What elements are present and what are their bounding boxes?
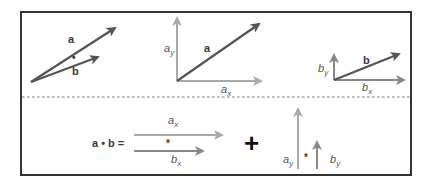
- equation-lhs: a • b =: [92, 137, 124, 149]
- vector-b-label: b: [363, 54, 370, 66]
- plus-sign: +: [244, 128, 259, 158]
- dot-operator: •: [72, 52, 76, 63]
- vector-b-label: b: [72, 65, 79, 77]
- x-term-multiply: *: [166, 138, 170, 149]
- diagram-frame: [21, 12, 411, 175]
- y-term-multiply: *: [304, 152, 308, 163]
- vector-a-label: a: [68, 33, 75, 45]
- dot-product-diagram: a • b ay a ax by b bx a • b = ax: [0, 0, 428, 186]
- vector-a-label: a: [204, 42, 211, 54]
